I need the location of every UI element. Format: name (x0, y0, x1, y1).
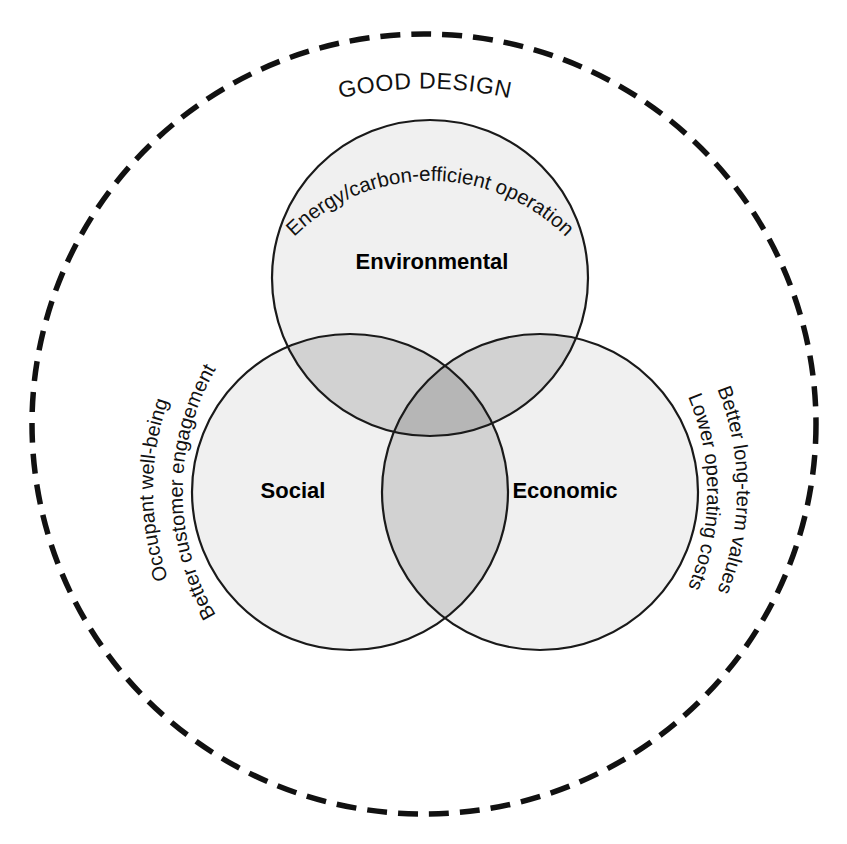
social-label: Social (261, 478, 326, 503)
good-design-title-text: GOOD DESIGN (336, 68, 515, 104)
good-design-title: GOOD DESIGN (336, 68, 515, 104)
environmental-label: Environmental (356, 249, 509, 274)
venn-diagram-root: Environmental Social Economic GOOD DESIG… (0, 0, 847, 844)
venn-diagram-canvas: Environmental Social Economic GOOD DESIG… (0, 0, 847, 844)
economic-label: Economic (512, 478, 617, 503)
